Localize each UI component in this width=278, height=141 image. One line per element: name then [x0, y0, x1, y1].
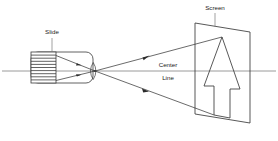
- label-center-line-row2: Line: [162, 74, 174, 81]
- ray-lower-inner: [56, 71, 95, 81]
- ray-marker-lower-inner: [76, 74, 82, 76]
- ray-marker-upper-out: [143, 56, 150, 61]
- optical-projection-diagram: Slide Screen Center Line: [0, 0, 278, 141]
- light-cone: [95, 37, 222, 115]
- label-slide: Slide: [45, 28, 59, 35]
- ray-lower-out: [95, 71, 214, 115]
- diagram-canvas: Slide Screen Center Line: [0, 0, 278, 141]
- projected-arrow: [204, 37, 240, 118]
- ray-marker-upper-inner: [76, 63, 82, 65]
- label-center-line-row1: Center: [159, 61, 178, 68]
- ray-upper-inner: [56, 56, 95, 72]
- label-screen: Screen: [205, 4, 225, 11]
- projector-assembly: [31, 52, 96, 83]
